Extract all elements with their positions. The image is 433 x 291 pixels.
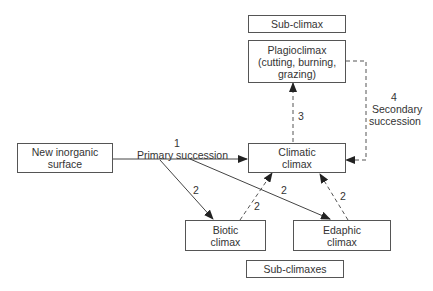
to-biotic-number-label: 2	[193, 184, 199, 196]
sub-climaxes-footer-box: Sub-climaxes	[246, 260, 344, 278]
climatic-to-plagio-number-label: 3	[298, 110, 304, 122]
new-surface-line1: New inorganic	[32, 146, 99, 158]
biotic-line2: climax	[211, 236, 241, 248]
edaphic-climax-box: Edaphic climax	[293, 220, 391, 251]
secondary-number-label: 4	[391, 91, 397, 103]
plagioclimax-detail-2: grazing)	[278, 68, 316, 80]
plagioclimax-title: Plagioclimax	[268, 44, 327, 56]
plagioclimax-detail-1: (cutting, burning,	[258, 56, 336, 68]
climatic-climax-box: Climatic climax	[248, 143, 346, 173]
primary-succession-label: Primary succession	[137, 149, 228, 161]
plagioclimax-box: Plagioclimax (cutting, burning, grazing)	[248, 40, 346, 83]
edaphic-line2: climax	[327, 236, 357, 248]
secondary-line2-label: succession	[369, 115, 421, 127]
edaphic-to-climatic-number-label: 2	[340, 190, 346, 202]
biotic-to-climatic-number-label: 2	[254, 200, 260, 212]
primary-number-label: 1	[174, 137, 180, 149]
sub-climaxes-label: Sub-climaxes	[263, 263, 326, 275]
edaphic-line1: Edaphic	[323, 224, 361, 236]
edge-secondary-succession	[346, 61, 366, 160]
secondary-line1-label: Secondary	[372, 103, 422, 115]
new-surface-line2: surface	[48, 158, 82, 170]
edge-biotic-to-climatic	[240, 173, 272, 220]
edge-to-biotic	[160, 160, 213, 219]
to-edaphic-number-label: 2	[281, 184, 287, 196]
climatic-line2: climax	[282, 158, 312, 170]
biotic-climax-box: Biotic climax	[185, 220, 266, 251]
climatic-line1: Climatic	[278, 146, 315, 158]
biotic-line1: Biotic	[213, 224, 239, 236]
new-surface-box: New inorganic surface	[17, 143, 113, 173]
sub-climax-header-box: Sub-climax	[248, 15, 346, 33]
sub-climax-label: Sub-climax	[271, 18, 323, 30]
